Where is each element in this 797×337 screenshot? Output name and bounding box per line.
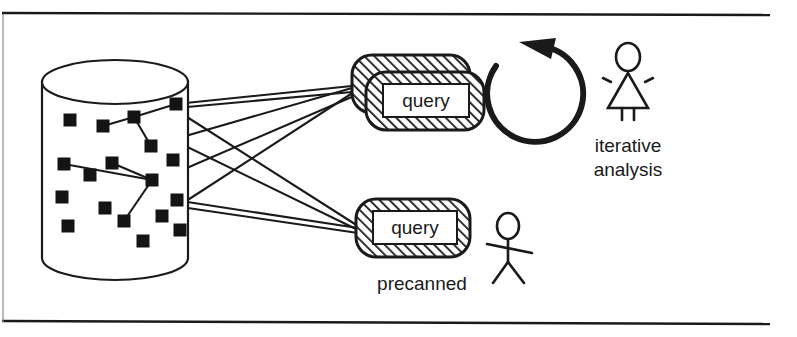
female-actor	[603, 43, 653, 120]
male-actor	[487, 213, 532, 283]
cylinder-body	[42, 82, 188, 280]
connection-line	[181, 207, 358, 233]
record-square	[167, 154, 180, 167]
female-arm-right	[645, 78, 653, 82]
frame-bottom-rule	[2, 321, 770, 324]
female-head-icon	[616, 43, 640, 71]
male-leg-right	[508, 262, 524, 283]
database-cylinder	[42, 60, 188, 280]
record-square	[62, 220, 75, 233]
female-arm-left	[603, 78, 611, 82]
precanned-caption: precanned	[377, 273, 467, 294]
record-square	[137, 235, 150, 248]
precanned-query-label: query	[391, 217, 439, 238]
iterative-analysis-caption-line-1: iterative	[595, 135, 662, 156]
record-square	[99, 202, 112, 215]
record-square	[145, 140, 158, 153]
iteration-loop-arrow	[487, 38, 583, 142]
record-square	[84, 169, 97, 182]
male-leg-left	[493, 262, 508, 283]
record-square	[128, 111, 141, 124]
record-square	[171, 194, 184, 207]
frame-top-rule	[2, 13, 770, 15]
female-dress-icon	[608, 73, 648, 108]
record-square	[97, 120, 110, 133]
connection-line	[181, 201, 358, 228]
cylinder-top-ellipse	[42, 60, 188, 104]
record-square	[106, 157, 119, 170]
connection-line	[176, 110, 358, 226]
diagram-canvas: query query iterative analysis	[0, 0, 797, 337]
iterative-analysis-caption-line-2: analysis	[594, 159, 663, 180]
record-square	[64, 114, 77, 127]
record-square	[118, 215, 131, 228]
iterative-query-stack[interactable]: query	[352, 55, 484, 130]
figure-container: query query iterative analysis	[0, 0, 797, 337]
loop-arc	[487, 46, 583, 142]
record-square	[156, 210, 169, 223]
record-square	[146, 174, 159, 187]
record-square	[174, 224, 187, 237]
connection-line	[180, 92, 354, 205]
male-arms	[487, 244, 532, 253]
record-square	[56, 191, 69, 204]
precanned-query[interactable]: query	[356, 199, 470, 257]
record-square	[170, 98, 183, 111]
iterative-query-label: query	[402, 90, 450, 111]
loop-arrowhead	[519, 38, 556, 59]
male-head-icon	[497, 213, 519, 239]
record-square	[58, 158, 71, 171]
